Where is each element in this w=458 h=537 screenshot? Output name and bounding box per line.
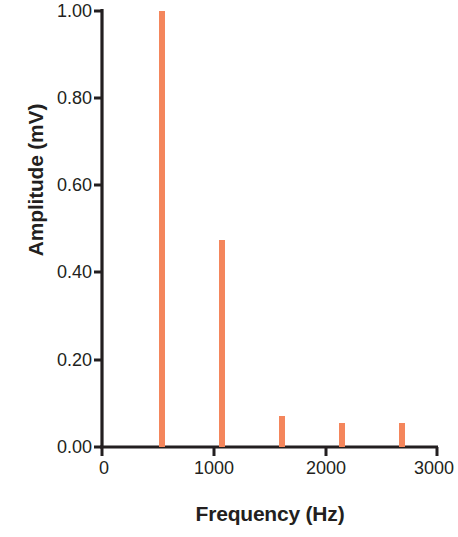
spectrum-bar: [219, 240, 225, 447]
x-tick-label: 1000: [174, 458, 254, 479]
x-tick-label: 0: [64, 458, 144, 479]
spectrum-bar: [399, 423, 405, 447]
y-axis-title: Amplitude (mV): [24, 50, 48, 310]
spectrum-bar: [339, 423, 345, 447]
spectrum-bar: [159, 11, 165, 447]
x-axis-title: Frequency (Hz): [90, 502, 450, 526]
y-tick-label: 0.00: [30, 437, 92, 458]
x-tick-label: 2000: [286, 458, 366, 479]
y-tick-label: 0.20: [30, 350, 92, 371]
x-tick-label: 3000: [394, 458, 458, 479]
spectrum-bar: [279, 416, 285, 447]
frequency-spectrum-chart: 1.00 0.80 0.60 0.40 0.20 0.00 0 1000 200…: [0, 0, 458, 537]
y-tick-label: 1.00: [30, 1, 92, 22]
